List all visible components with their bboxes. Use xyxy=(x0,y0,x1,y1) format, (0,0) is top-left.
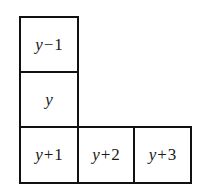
cell-variable: y xyxy=(92,145,100,165)
cell-operator: + xyxy=(157,145,167,165)
cell-number: 1 xyxy=(54,35,63,55)
cell-operator: − xyxy=(44,35,54,55)
cell-y-minus-1: y−1 xyxy=(19,16,79,73)
cell-variable: y xyxy=(35,145,43,165)
cell-number: 1 xyxy=(54,145,63,165)
cell-operator: + xyxy=(101,145,111,165)
cell-y-plus-2: y+2 xyxy=(77,126,135,184)
cell-variable: y xyxy=(149,145,157,165)
cell-y-plus-1: y+1 xyxy=(19,126,79,184)
cell-variable: y xyxy=(35,35,43,55)
cell-operator: + xyxy=(44,145,54,165)
cell-y-plus-3: y+3 xyxy=(133,126,192,184)
cell-number: 2 xyxy=(111,145,120,165)
cell-variable: y xyxy=(45,90,53,110)
cell-y: y xyxy=(19,71,79,128)
cell-number: 3 xyxy=(168,145,177,165)
